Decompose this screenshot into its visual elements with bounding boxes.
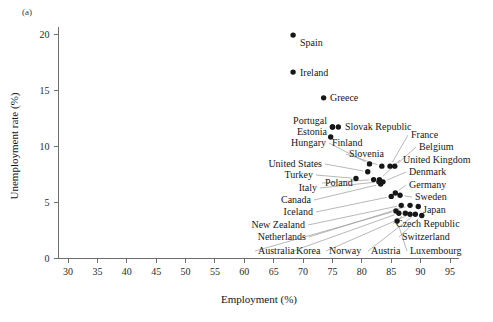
x-tick-label: 85 [386,266,396,277]
x-axis-title: Employment (%) [221,293,297,306]
x-tick-label: 70 [298,266,308,277]
leader-line [387,172,406,180]
x-tick-label: 50 [181,266,191,277]
data-point-label: Australia [258,245,295,256]
data-point-label: France [411,129,439,140]
x-tick-label: 95 [445,266,455,277]
data-point [336,124,341,129]
data-point [396,211,401,216]
y-axis-title: Unemployment rate (%) [8,92,21,199]
scatter-plot-svg: (a) 3035404550556065707580859095 0510152… [0,0,493,322]
data-point-label: Turkey [284,169,313,180]
data-point-label: Austria [371,245,401,256]
data-point-label: Slovenia [349,148,385,159]
x-tick-label: 65 [269,266,279,277]
y-tick-label: 15 [40,85,50,96]
y-tick-label: 20 [40,29,50,40]
data-point [399,203,404,208]
x-tick-label: 60 [239,266,249,277]
data-point [387,163,392,168]
data-point-label: Czech Republic [396,218,460,229]
x-tick-label: 75 [327,266,337,277]
data-point-label: Belgium [419,141,454,152]
data-point-label: Canada [281,194,312,205]
data-point-label: Finland [332,137,363,148]
data-point [407,212,412,217]
data-point-label: Switzerland [402,231,450,242]
data-point [367,161,372,166]
data-point-label: Netherlands [258,231,306,242]
leader-line [308,206,397,225]
data-point [290,32,295,37]
data-point-label: Ireland [300,67,328,78]
data-point [392,163,397,168]
data-point [389,194,394,199]
x-tick-label: 90 [416,266,426,277]
leader-line [399,185,406,190]
x-tick-label: 40 [122,266,132,277]
x-tick-label: 45 [151,266,161,277]
leader-line [325,164,363,171]
data-point-label: Japan [423,204,446,215]
data-point-label: Sweden [415,191,447,202]
data-point [416,204,421,209]
data-point-label: New Zealand [251,219,305,230]
data-point-label: Luxembourg [410,245,461,256]
data-point-label: Greece [330,92,359,103]
x-axis-ticks: 3035404550556065707580859095 [63,258,455,277]
data-point-label: Norway [329,245,361,256]
data-point [397,193,402,198]
data-point [403,211,408,216]
data-point [413,212,418,217]
data-point [378,181,383,186]
data-point-label: Germany [409,179,446,190]
point-labels: SpainIrelandGreecePortugalEstoniaSlovak … [251,37,470,256]
data-point-label: Iceland [284,206,313,217]
data-point [371,177,376,182]
data-point-label: United States [268,158,322,169]
data-point [353,176,358,181]
leader-line [316,197,387,212]
y-tick-label: 5 [45,197,50,208]
y-tick-label: 0 [45,253,50,264]
x-tick-label: 55 [210,266,220,277]
data-point [365,169,370,174]
scatter-plot-figure: (a) 3035404550556065707580859095 0510152… [0,0,493,322]
data-point [321,95,326,100]
data-point-label: Estonia [297,126,328,137]
data-point-label: Italy [299,182,317,193]
x-tick-label: 80 [357,266,367,277]
data-point [290,69,295,74]
data-point [330,124,335,129]
panel-label: (a) [22,7,32,17]
data-point-label: Slovak Republic [345,121,412,132]
x-tick-label: 30 [63,266,73,277]
data-point-label: Portugal [293,115,327,126]
leader-line [405,196,412,197]
data-point-label: Poland [325,177,353,188]
y-axis-ticks: 05101520 [40,29,59,264]
data-point-label: United Kingdom [403,154,471,165]
data-point-label: Spain [300,37,323,48]
data-point [407,203,412,208]
data-point [379,163,384,168]
x-tick-label: 35 [92,266,102,277]
data-point-label: Korea [296,245,321,256]
data-point-label: Denmark [409,166,446,177]
data-point-label: Hungary [291,137,326,148]
y-tick-label: 10 [40,141,50,152]
